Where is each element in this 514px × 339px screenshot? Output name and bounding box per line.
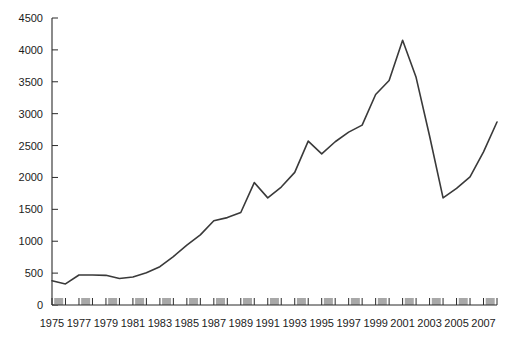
x-axis-band [243, 298, 252, 305]
x-tick-label: 1985 [175, 317, 199, 329]
x-tick-label: 1989 [229, 317, 253, 329]
x-axis-bands [54, 298, 495, 305]
x-tick-label: 1975 [40, 317, 64, 329]
y-tick-label: 500 [25, 267, 43, 279]
line-chart: 050010001500200025003000350040004500 197… [0, 0, 514, 339]
x-axis-band [324, 298, 333, 305]
x-tick-label: 1999 [363, 317, 387, 329]
x-tick-label: 2001 [390, 317, 414, 329]
y-axis-tick-marks [52, 18, 58, 305]
y-tick-label: 4500 [19, 12, 43, 24]
x-axis-band [297, 298, 306, 305]
x-axis-band [351, 298, 360, 305]
x-tick-label: 1981 [121, 317, 145, 329]
x-tick-label: 1993 [282, 317, 306, 329]
x-axis-band [432, 298, 441, 305]
x-axis-tick-labels: 1975197719791981198319851987198919911993… [40, 317, 496, 329]
y-tick-label: 2500 [19, 140, 43, 152]
x-tick-label: 2005 [444, 317, 468, 329]
x-tick-label: 1995 [309, 317, 333, 329]
x-axis-band [486, 298, 495, 305]
x-axis-band [54, 298, 63, 305]
x-tick-label: 2007 [471, 317, 495, 329]
y-tick-label: 4000 [19, 44, 43, 56]
x-tick-label: 1991 [256, 317, 280, 329]
x-tick-label: 1977 [67, 317, 91, 329]
x-tick-label: 2003 [417, 317, 441, 329]
x-axis-band [81, 298, 90, 305]
x-axis-band [135, 298, 144, 305]
x-axis-band [405, 298, 414, 305]
x-axis-band [270, 298, 279, 305]
x-axis-band [108, 298, 117, 305]
x-axis-band [216, 298, 225, 305]
y-tick-label: 3000 [19, 108, 43, 120]
x-axis-band [378, 298, 387, 305]
chart-canvas: 050010001500200025003000350040004500 197… [0, 0, 514, 339]
y-tick-label: 1500 [19, 203, 43, 215]
x-axis-band [189, 298, 198, 305]
y-tick-label: 1000 [19, 235, 43, 247]
x-tick-label: 1979 [94, 317, 118, 329]
y-tick-label: 2000 [19, 171, 43, 183]
data-series-line [52, 40, 497, 284]
y-tick-label: 3500 [19, 76, 43, 88]
y-tick-label: 0 [37, 299, 43, 311]
x-axis-band [162, 298, 171, 305]
x-tick-label: 1987 [202, 317, 226, 329]
y-axis-tick-labels: 050010001500200025003000350040004500 [19, 12, 43, 311]
x-axis-band [459, 298, 468, 305]
x-tick-label: 1997 [336, 317, 360, 329]
x-tick-label: 1983 [148, 317, 172, 329]
